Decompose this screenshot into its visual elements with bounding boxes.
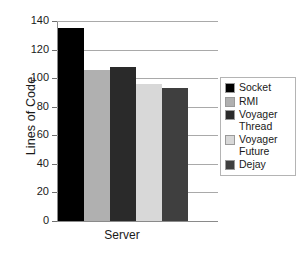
bar xyxy=(58,28,84,221)
legend-item[interactable]: RMI xyxy=(225,96,292,108)
y-tick-mark xyxy=(52,21,57,22)
y-tick-label: 120 xyxy=(9,44,49,55)
y-tick-label: 0 xyxy=(9,215,49,226)
y-tick-label: 60 xyxy=(9,129,49,140)
y-tick-mark xyxy=(52,192,57,193)
legend-swatch-icon xyxy=(225,135,235,145)
legend-swatch-icon xyxy=(225,97,235,107)
legend-item-label: Dejay xyxy=(239,159,266,171)
y-tick-label: 40 xyxy=(9,158,49,169)
x-axis-title: Server xyxy=(57,228,187,242)
legend-item[interactable]: Voyager Future xyxy=(225,134,292,157)
bar-series-group xyxy=(58,21,187,221)
y-tick-mark xyxy=(52,221,57,222)
bar-chart: Lines of Code 020406080100120140 Server … xyxy=(0,0,301,266)
legend-item[interactable]: Dejay xyxy=(225,159,292,171)
x-axis-line xyxy=(57,221,218,222)
legend-item[interactable]: Voyager Thread xyxy=(225,109,292,132)
chart-legend: SocketRMIVoyager ThreadVoyager FutureDej… xyxy=(220,77,296,176)
legend-item[interactable]: Socket xyxy=(225,82,292,94)
bar xyxy=(162,88,188,221)
y-tick-mark xyxy=(52,107,57,108)
legend-swatch-icon xyxy=(225,83,235,93)
y-tick-label: 140 xyxy=(9,15,49,26)
y-tick-label: 100 xyxy=(9,72,49,83)
bar xyxy=(136,84,162,221)
legend-item-label: RMI xyxy=(239,96,258,108)
bar xyxy=(84,70,110,221)
legend-swatch-icon xyxy=(225,110,235,120)
bar xyxy=(110,67,136,221)
y-tick-mark xyxy=(52,135,57,136)
legend-swatch-icon xyxy=(225,160,235,170)
y-tick-mark xyxy=(52,50,57,51)
y-tick-label: 80 xyxy=(9,101,49,112)
y-tick-label: 20 xyxy=(9,186,49,197)
y-tick-mark xyxy=(52,164,57,165)
y-tick-mark xyxy=(52,78,57,79)
legend-item-label: Socket xyxy=(239,82,271,94)
legend-item-label: Voyager Thread xyxy=(239,109,278,132)
legend-item-label: Voyager Future xyxy=(239,134,278,157)
